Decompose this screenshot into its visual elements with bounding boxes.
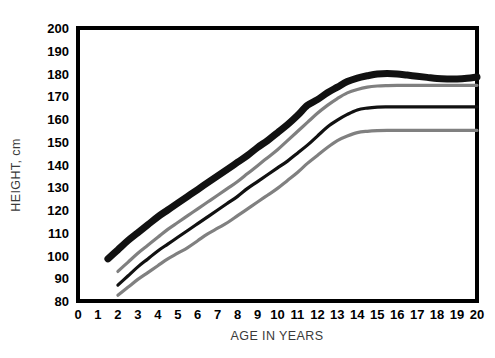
y-tick-label: 160: [47, 112, 69, 127]
x-tick-label: 17: [410, 307, 424, 322]
x-tick-label: 5: [174, 307, 181, 322]
x-tick-label: 6: [194, 307, 201, 322]
plot-frame: [78, 28, 477, 301]
x-tick-label: 13: [330, 307, 344, 322]
x-tick-label: 12: [310, 307, 324, 322]
x-tick-label: 1: [94, 307, 101, 322]
x-tick-label: 19: [450, 307, 464, 322]
x-tick-label: 9: [254, 307, 261, 322]
x-axis-tick-labels: 01234567891011121314151617181920: [74, 307, 484, 322]
y-tick-label: 130: [47, 180, 69, 195]
y-tick-label: 120: [47, 203, 69, 218]
y-tick-label: 100: [47, 249, 69, 264]
x-tick-label: 14: [350, 307, 365, 322]
y-axis-title: HEIGHT, cm: [9, 138, 23, 211]
x-axis-title: AGE IN YEARS: [231, 329, 324, 343]
x-tick-label: 4: [154, 307, 162, 322]
growth-chart-svg: 8090100110120130140150160170180190200 01…: [0, 0, 495, 358]
y-tick-label: 150: [47, 135, 69, 150]
x-tick-label: 2: [114, 307, 121, 322]
y-tick-label: 80: [55, 294, 69, 309]
x-tick-label: 16: [390, 307, 404, 322]
y-tick-label: 190: [47, 44, 69, 59]
y-tick-label: 140: [47, 158, 69, 173]
y-tick-label: 90: [55, 271, 69, 286]
x-tick-label: 11: [291, 307, 305, 322]
x-tick-label: 8: [234, 307, 241, 322]
y-tick-label: 200: [47, 21, 69, 36]
x-tick-label: 0: [74, 307, 81, 322]
x-tick-label: 7: [214, 307, 221, 322]
x-tick-label: 18: [430, 307, 444, 322]
x-tick-label: 15: [370, 307, 384, 322]
x-tick-label: 20: [470, 307, 484, 322]
growth-chart-figure: 8090100110120130140150160170180190200 01…: [0, 0, 495, 358]
x-tick-label: 10: [270, 307, 284, 322]
x-tick-label: 3: [134, 307, 141, 322]
y-tick-label: 180: [47, 67, 69, 82]
y-tick-label: 170: [47, 89, 69, 104]
y-tick-label: 110: [48, 226, 69, 241]
